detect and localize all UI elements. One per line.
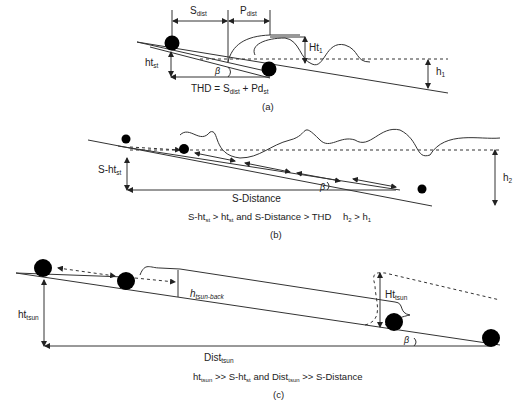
boulder-start-b bbox=[122, 135, 131, 144]
condition-b: S-htst > htst and S-Distance > THD bbox=[188, 212, 331, 223]
label-dist-tsun: Disttsun bbox=[204, 353, 234, 365]
label-s-distance: S-Distance bbox=[232, 194, 281, 204]
label-beta-a: β bbox=[215, 67, 220, 76]
beta-arc bbox=[414, 338, 416, 346]
condition-c: httsun >> S-htst and Disttsun >> S-Dista… bbox=[193, 372, 362, 383]
caption-c: (c) bbox=[273, 390, 284, 400]
sediment-layer-bottom bbox=[150, 47, 270, 78]
label-Ht-tsun: Httsun bbox=[385, 290, 407, 302]
transport-dashed-arrow-2 bbox=[135, 278, 175, 282]
label-p-dist: Pdist bbox=[240, 6, 257, 18]
label-h1: h1 bbox=[436, 67, 445, 79]
boulder-start-a bbox=[165, 36, 180, 51]
saltation-arrow-3 bbox=[297, 173, 340, 181]
slope-line bbox=[16, 273, 500, 345]
h-relation-b: h2 > h1 bbox=[343, 212, 371, 223]
diagram-canvas bbox=[0, 0, 530, 408]
saltation-arrow-2 bbox=[245, 163, 290, 172]
panel-c bbox=[16, 267, 500, 346]
label-beta-c: β bbox=[404, 336, 409, 345]
caption-b: (b) bbox=[270, 230, 282, 240]
sediment-layer bbox=[118, 146, 400, 190]
label-h2: h2 bbox=[503, 173, 512, 185]
boulder-mid-b bbox=[179, 144, 189, 154]
boulder-mid-c bbox=[117, 272, 135, 290]
panel-a bbox=[137, 10, 448, 93]
boulder-end-c bbox=[482, 329, 500, 347]
label-ht-st: htst bbox=[145, 58, 158, 70]
saltation-arrow-1 bbox=[195, 153, 235, 161]
caption-a: (a) bbox=[262, 102, 274, 112]
label-ht-tsun: httsun bbox=[18, 310, 39, 322]
equation-thd: THD = Sdist + Pdst bbox=[191, 84, 268, 96]
boulder-end-b bbox=[418, 185, 427, 194]
backwash-flow-top bbox=[140, 267, 410, 315]
beta-arc bbox=[228, 67, 231, 77]
slope-line bbox=[137, 42, 448, 93]
turbulent-flow-outline bbox=[180, 129, 500, 158]
label-ht1: Ht1 bbox=[309, 43, 323, 55]
boulder-end-a bbox=[262, 62, 277, 77]
panel-b bbox=[88, 129, 500, 206]
boulder-deposit-c bbox=[385, 313, 403, 331]
label-beta-b: β bbox=[320, 183, 325, 192]
boulder-start-c bbox=[34, 259, 52, 277]
label-s-ht-st: S-htst bbox=[98, 165, 121, 177]
label-h-tsun-back: htsun-back bbox=[190, 289, 224, 301]
label-s-dist: Sdist bbox=[190, 6, 207, 18]
